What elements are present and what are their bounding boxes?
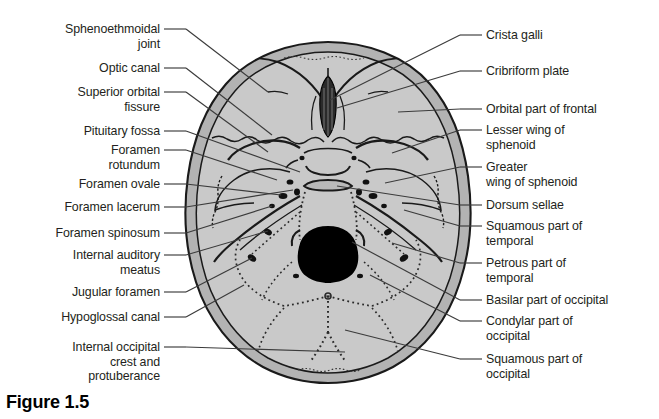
label-sphenoethmoidal-joint: Sphenoethmoidal joint bbox=[12, 22, 160, 51]
label-foramen-spinosum: Foramen spinosum bbox=[12, 226, 160, 241]
label-foramen-lacerum: Foramen lacerum bbox=[12, 200, 160, 215]
label-optic-canal: Optic canal bbox=[12, 61, 160, 76]
foramen-rotundum-right bbox=[363, 179, 370, 184]
label-orbital-part-of-frontal: Orbital part of frontal bbox=[486, 102, 597, 117]
foramen-ovale-right bbox=[369, 193, 378, 199]
label-hypoglossal-canal: Hypoglossal canal bbox=[12, 310, 160, 325]
label-petrous-part-of-temporal: Petrous part of temporal bbox=[486, 256, 566, 285]
label-basilar-part-of-occipital: Basilar part of occipital bbox=[486, 293, 608, 308]
hypoglossal-canal-left bbox=[293, 274, 299, 278]
foramen-rotundum-left bbox=[287, 179, 294, 184]
label-condylar-part-of-occipital: Condylar part of occipital bbox=[486, 314, 573, 343]
label-squamous-part-of-occipital: Squamous part of occipital bbox=[486, 352, 582, 381]
label-dorsum-sellae: Dorsum sellae bbox=[486, 198, 564, 213]
foramen-ovale-left bbox=[279, 193, 288, 199]
optic-canal-left bbox=[299, 156, 304, 160]
dorsum-sellae bbox=[304, 180, 352, 191]
foramen-magnum bbox=[298, 226, 359, 283]
label-crista-galli: Crista galli bbox=[486, 28, 543, 43]
label-squamous-part-of-temporal: Squamous part of temporal bbox=[486, 219, 582, 248]
label-foramen-rotundum: Foramen rotundum bbox=[12, 143, 160, 172]
label-lesser-wing-of-sphenoid: Lesser wing of sphenoid bbox=[486, 123, 565, 152]
label-jugular-foramen: Jugular foramen bbox=[12, 285, 160, 300]
label-superior-orbital-fissure: Superior orbital fissure bbox=[12, 85, 160, 114]
label-greater-wing-of-sphenoid: Greater wing of sphenoid bbox=[486, 160, 577, 189]
skull-base-drawing bbox=[185, 42, 470, 383]
foramen-lacerum-left bbox=[294, 189, 300, 196]
label-pituitary-fossa: Pituitary fossa bbox=[12, 124, 160, 139]
label-foramen-ovale: Foramen ovale bbox=[12, 177, 160, 192]
foramen-spinosum-right bbox=[381, 204, 387, 208]
label-cribriform-plate: Cribriform plate bbox=[486, 64, 569, 79]
label-internal-occipital-crest-and-protuberance: Internal occipital crest and protuberanc… bbox=[12, 340, 160, 384]
optic-canal-right bbox=[351, 156, 356, 160]
figure-caption: Figure 1.5 bbox=[6, 392, 89, 413]
label-internal-auditory-meatus: Internal auditory meatus bbox=[12, 248, 160, 277]
hypoglossal-canal-right bbox=[357, 274, 363, 278]
